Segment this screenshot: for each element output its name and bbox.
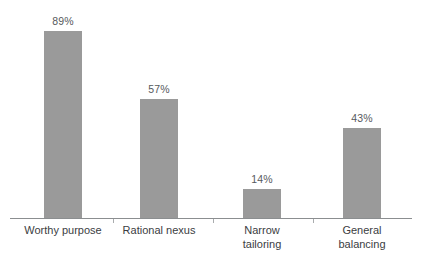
axis-tick	[113, 219, 114, 223]
bar-chart: 89% 57% 14% 43% Worthy purpose Rational …	[0, 0, 422, 261]
bar-general-balancing	[343, 128, 381, 219]
category-label-rational-nexus: Rational nexus	[109, 224, 209, 238]
axis-tick	[313, 219, 314, 223]
bar-rational-nexus	[140, 99, 178, 219]
bar-value-label: 57%	[140, 83, 178, 95]
category-label-narrow-tailoring: Narrow tailoring	[212, 224, 312, 251]
bar-value-label: 89%	[44, 15, 82, 27]
plot-area: 89% 57% 14% 43%	[0, 0, 422, 219]
bar-value-label: 43%	[343, 112, 381, 124]
bar-worthy-purpose	[44, 31, 82, 219]
category-label-general-balancing: General balancing	[312, 224, 412, 251]
x-axis-line	[10, 218, 412, 219]
bar-value-label: 14%	[243, 173, 281, 185]
x-axis-category-labels: Worthy purpose Rational nexus Narrow tai…	[0, 224, 422, 261]
axis-tick	[213, 219, 214, 223]
bar-narrow-tailoring	[243, 189, 281, 219]
category-label-worthy-purpose: Worthy purpose	[13, 224, 113, 238]
